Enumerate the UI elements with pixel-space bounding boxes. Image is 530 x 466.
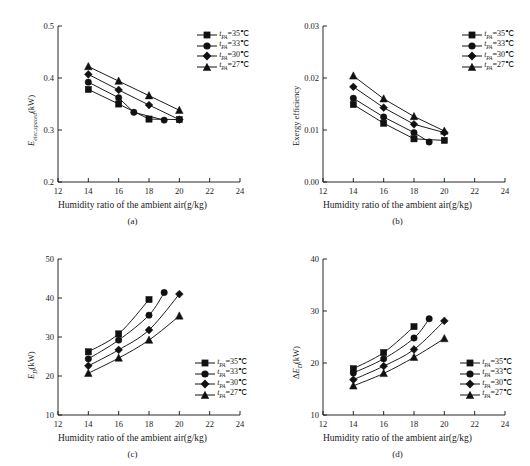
x-tick-label: 20 (440, 186, 449, 196)
diamond-marker (84, 70, 92, 78)
circle-marker (380, 356, 386, 362)
x-tick-label: 22 (205, 419, 214, 429)
diamond-marker-icon (460, 379, 480, 389)
y-tick-label: 10 (46, 410, 55, 420)
y-tick-label: 20 (46, 371, 55, 381)
circle-marker-icon (195, 369, 215, 379)
series-line (88, 82, 164, 120)
triangle-marker (176, 312, 184, 319)
x-tick-label: 14 (84, 419, 93, 429)
legend-d: tPA=35℃tPA=33℃tPA=30℃tPA=27℃ (460, 358, 512, 400)
circle-marker (146, 312, 152, 318)
circle-marker (161, 289, 167, 295)
y-axis-label-d: ΔED(kW) (291, 346, 303, 379)
chart-panel-b: 121416182022240.000.010.020.03 Exergy ef… (265, 0, 530, 233)
x-tick-label: 12 (319, 186, 328, 196)
square-marker (381, 350, 387, 356)
square-marker (116, 101, 122, 107)
triangle-marker (85, 369, 93, 376)
y-tick-label: 40 (46, 293, 55, 303)
x-tick-label: 24 (501, 419, 510, 429)
square-marker (146, 296, 152, 302)
legend-label: tPA=27℃ (484, 60, 514, 73)
triangle-marker-icon (460, 390, 480, 400)
diamond-marker-icon (462, 51, 482, 61)
y-tick-label: 0.02 (304, 73, 319, 83)
x-tick-label: 14 (349, 186, 358, 196)
square-marker-icon (197, 30, 217, 40)
x-tick-label: 12 (54, 186, 63, 196)
circle-marker-icon (197, 41, 217, 51)
y-tick-label: 0.2 (43, 177, 54, 187)
circle-marker-icon (460, 369, 480, 379)
diamond-marker-icon (197, 51, 217, 61)
panel-caption-c: (c) (0, 449, 265, 459)
plot-area-d: 1214161820222410203040 (265, 233, 530, 466)
triangle-marker (380, 95, 388, 102)
circle-marker (115, 337, 121, 343)
circle-marker (380, 114, 386, 120)
x-tick-label: 12 (54, 419, 63, 429)
y-tick-label: 50 (46, 254, 55, 264)
legend-label: tPA=27℃ (219, 60, 249, 73)
circle-marker (411, 129, 417, 135)
series-line (88, 294, 179, 366)
diamond-marker (380, 104, 388, 112)
square-marker (85, 86, 91, 92)
series-line (353, 98, 429, 142)
x-tick-label: 20 (440, 419, 449, 429)
circle-marker (161, 117, 167, 123)
x-tick-label: 22 (205, 186, 214, 196)
x-tick-label: 18 (145, 419, 154, 429)
diamond-marker (115, 346, 123, 354)
square-marker (116, 331, 122, 337)
chart-panel-d: 1214161820222410203040 ΔED(kW) Humidity … (265, 233, 530, 466)
triangle-marker (115, 354, 123, 361)
x-tick-label: 22 (470, 186, 479, 196)
x-axis-label-a: Humidity ratio of the ambient air(g/kg) (0, 200, 265, 210)
x-tick-label: 22 (470, 419, 479, 429)
x-tick-label: 20 (175, 186, 184, 196)
x-tick-label: 18 (410, 186, 419, 196)
series-line (88, 300, 149, 352)
y-tick-label: 0.01 (304, 125, 319, 135)
x-axis-label-d: Humidity ratio of the ambient air(g/kg) (265, 433, 530, 443)
triangle-marker (85, 62, 93, 69)
circle-marker (131, 109, 137, 115)
y-tick-label: 40 (311, 254, 320, 264)
square-marker (411, 324, 417, 330)
square-marker (350, 101, 356, 107)
panel-caption-a: (a) (0, 216, 265, 226)
legend-label: tPA=27℃ (217, 388, 247, 401)
diamond-marker (145, 101, 153, 109)
x-tick-label: 12 (319, 419, 328, 429)
y-tick-label: 0.4 (43, 73, 54, 83)
diamond-marker (349, 83, 357, 91)
x-tick-label: 16 (379, 419, 388, 429)
x-tick-label: 24 (236, 419, 245, 429)
triangle-marker (350, 72, 358, 79)
x-axis-label-c: Humidity ratio of the ambient air(g/kg) (0, 433, 265, 443)
circle-marker (350, 370, 356, 376)
x-tick-label: 14 (84, 186, 93, 196)
series-line (353, 321, 444, 380)
circle-marker (85, 79, 91, 85)
x-tick-label: 18 (410, 419, 419, 429)
triangle-marker (176, 106, 184, 113)
y-tick-label: 10 (311, 410, 320, 420)
legend-label: tPA=27℃ (482, 388, 512, 401)
triangle-marker (441, 334, 449, 341)
diamond-marker (115, 86, 123, 94)
x-tick-label: 24 (236, 186, 245, 196)
y-axis-label-b: Exergy efficiency (291, 86, 301, 146)
x-tick-label: 14 (349, 419, 358, 429)
y-tick-label: 0.03 (304, 21, 319, 31)
legend-c: tPA=35℃tPA=33℃tPA=30℃tPA=27℃ (195, 358, 247, 400)
x-tick-label: 16 (114, 419, 123, 429)
triangle-marker (380, 369, 388, 376)
square-marker (411, 136, 417, 142)
triangle-marker (441, 127, 449, 134)
circle-marker (85, 356, 91, 362)
square-marker-icon (195, 358, 215, 368)
circle-marker (426, 316, 432, 322)
